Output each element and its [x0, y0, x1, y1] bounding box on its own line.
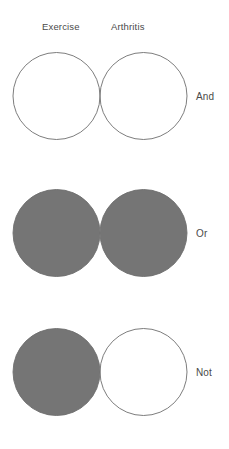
operator-label-and: And: [196, 91, 214, 102]
panel-or: Or: [13, 190, 208, 277]
and-left-circle: [13, 53, 100, 140]
panel-not: Not: [13, 329, 212, 416]
venn-diagram-figure: Exercise Arthritis And Or Not: [0, 0, 229, 449]
or-left-circle: [13, 190, 100, 277]
operator-label-not: Not: [196, 367, 212, 378]
and-right-circle: [100, 53, 187, 140]
panel-and: Exercise Arthritis And: [13, 21, 214, 140]
set-label-right: Arthritis: [111, 21, 145, 32]
or-right-circle: [100, 190, 187, 277]
venn-diagram-canvas: Exercise Arthritis And Or Not: [0, 0, 229, 449]
operator-label-or: Or: [196, 228, 208, 239]
set-label-left: Exercise: [42, 21, 80, 32]
not-right-circle: [100, 329, 187, 416]
